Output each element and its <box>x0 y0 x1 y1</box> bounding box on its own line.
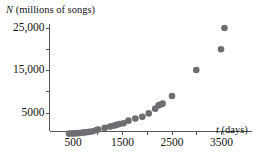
x-axis-title: t (days) <box>216 124 248 135</box>
data-point <box>193 67 200 74</box>
x-tick-label-500: 500 <box>51 136 95 148</box>
data-point <box>101 125 108 132</box>
data-point <box>169 93 176 100</box>
y-tick-label-15000: 15,000 <box>0 63 45 75</box>
x-tick-label-2500: 2500 <box>150 136 194 148</box>
data-point <box>145 110 152 117</box>
data-point <box>132 115 139 122</box>
data-point-group <box>66 25 228 137</box>
x-axis-unit: (days) <box>222 124 248 135</box>
scatter-chart-figure: 25,000 15,000 5000 500 1500 2500 3500 N … <box>0 0 264 162</box>
x-tick-label-3500: 3500 <box>200 136 244 148</box>
y-tick-label-5000: 5000 <box>0 106 45 118</box>
y-tick-label-25000: 25,000 <box>0 21 45 33</box>
y-axis-unit: (millions of songs) <box>16 4 95 15</box>
y-axis-title: N (millions of songs) <box>6 4 95 15</box>
x-tick-label-1500: 1500 <box>101 136 145 148</box>
data-point <box>125 117 132 124</box>
data-point <box>218 46 225 53</box>
data-point <box>159 100 166 107</box>
data-point <box>95 126 102 133</box>
y-axis-symbol: N <box>6 4 13 15</box>
data-point <box>139 114 146 121</box>
data-point <box>221 25 228 32</box>
